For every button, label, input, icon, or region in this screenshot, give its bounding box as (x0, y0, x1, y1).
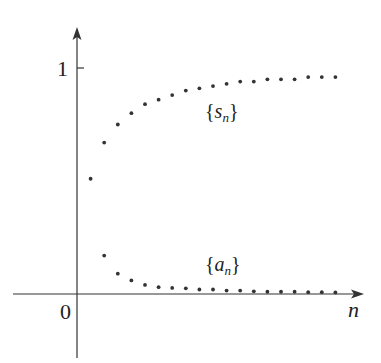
data-point (334, 75, 338, 79)
series-s-label: {sn} (205, 100, 239, 125)
data-point (293, 290, 297, 294)
data-point (225, 289, 229, 293)
data-point (116, 123, 120, 127)
data-point (320, 290, 324, 294)
data-point (157, 98, 161, 102)
data-point (266, 77, 270, 81)
data-point (320, 75, 324, 79)
data-point (130, 111, 134, 115)
y-tick-label-1: 1 (57, 56, 68, 81)
data-point (252, 289, 256, 293)
x-axis-label: n (348, 297, 359, 322)
data-point (170, 286, 174, 290)
data-point (279, 77, 283, 81)
data-point (211, 288, 215, 292)
data-point (279, 290, 283, 294)
data-point (143, 283, 147, 287)
sequence-chart: 1 0 n {sn} {an} (0, 0, 381, 363)
data-point (143, 102, 147, 106)
data-point (252, 80, 256, 84)
series-s-label-main: s (215, 100, 223, 122)
data-point (334, 291, 338, 295)
data-point (184, 286, 188, 290)
series-a-label: {an} (205, 253, 241, 278)
data-point (116, 272, 120, 276)
series-s-points (89, 75, 338, 181)
series-a-label-main: a (215, 253, 225, 275)
data-point (211, 84, 215, 88)
data-point (89, 177, 93, 181)
data-point (198, 86, 202, 90)
data-point (184, 89, 188, 93)
data-point (157, 285, 161, 289)
data-point (102, 254, 106, 258)
data-point (238, 80, 242, 84)
data-point (238, 289, 242, 293)
data-point (198, 288, 202, 292)
origin-label: 0 (60, 299, 71, 324)
data-point (130, 279, 134, 283)
data-point (170, 93, 174, 97)
data-point (225, 82, 229, 86)
data-point (306, 290, 310, 294)
data-point (266, 290, 270, 294)
data-point (102, 141, 106, 145)
data-point (306, 75, 310, 79)
data-point (293, 77, 297, 81)
